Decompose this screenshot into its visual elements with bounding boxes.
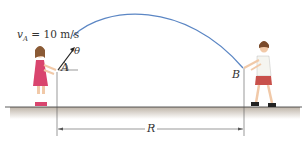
boy-figure — [244, 41, 276, 107]
girl-figure — [33, 46, 56, 106]
point-a-label: A — [61, 61, 69, 74]
angle-label: θ — [74, 45, 80, 56]
ground — [5, 107, 302, 119]
velocity-label: vA = 10 m/s — [17, 28, 79, 43]
range-label: R — [145, 122, 157, 135]
projectile-diagram: vA = 10 m/s θ A B R — [0, 0, 306, 147]
point-b-label: B — [232, 68, 240, 81]
trajectory-arc — [73, 14, 243, 68]
